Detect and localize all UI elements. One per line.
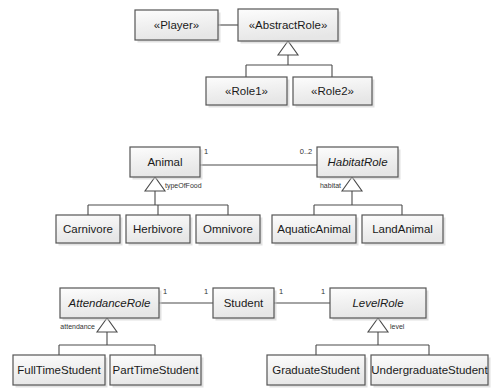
class-name-label: Herbivore bbox=[133, 223, 183, 235]
class-name-label: «Role1» bbox=[225, 85, 268, 97]
multiplicity-label: 1 bbox=[321, 287, 325, 296]
uml-class-diagram: «Player»«AbstractRole»«Role1»«Role2»Anim… bbox=[0, 0, 494, 391]
class-name-label: PartTimeStudent bbox=[113, 364, 200, 376]
class-name-label: AttendanceRole bbox=[68, 297, 151, 309]
multiplicity-label: 1 bbox=[204, 287, 208, 296]
class-box-carnivore[interactable]: Carnivore bbox=[56, 215, 123, 246]
class-name-label: Omnivore bbox=[203, 223, 253, 235]
multiplicity-label: 1 bbox=[204, 147, 208, 156]
class-box-animal[interactable]: Animal bbox=[130, 147, 203, 180]
role-name-label: attendance bbox=[60, 323, 95, 330]
class-box-habitatrole[interactable]: HabitatRole bbox=[317, 147, 401, 180]
class-box-graduatestudent[interactable]: GraduateStudent bbox=[267, 355, 368, 388]
class-name-label: «AbstractRole» bbox=[249, 19, 328, 31]
class-name-label: HabitatRole bbox=[327, 156, 387, 168]
uml-diagram-canvas: «Player»«AbstractRole»«Role1»«Role2»Anim… bbox=[0, 0, 494, 391]
role-name-label: habitat bbox=[320, 182, 341, 189]
class-name-label: UndergraduateStudent bbox=[371, 364, 488, 376]
class-box-attendancerole[interactable]: AttendanceRole bbox=[60, 288, 162, 321]
role-name-label: level bbox=[390, 323, 405, 330]
class-name-label: AquaticAnimal bbox=[277, 223, 351, 235]
class-box-fulltimestudent[interactable]: FullTimeStudent bbox=[13, 355, 108, 388]
class-box-student[interactable]: Student bbox=[213, 288, 277, 321]
class-name-label: «Role2» bbox=[311, 85, 354, 97]
class-box-levelrole[interactable]: LevelRole bbox=[330, 288, 429, 321]
multiplicity-label: 1 bbox=[163, 287, 167, 296]
role-name-label: typeOfFood bbox=[165, 182, 202, 190]
class-box-role2[interactable]: «Role2» bbox=[293, 77, 375, 108]
class-box-layer: «Player»«AbstractRole»«Role1»«Role2»Anim… bbox=[13, 9, 491, 388]
generalization-abstractrole-gen bbox=[246, 41, 332, 77]
class-box-herbivore[interactable]: Herbivore bbox=[126, 215, 193, 246]
class-name-label: Animal bbox=[147, 156, 182, 168]
class-box-role1[interactable]: «Role1» bbox=[206, 77, 290, 108]
generalization-levelrole-gen bbox=[316, 318, 429, 355]
class-name-label: Carnivore bbox=[63, 223, 113, 235]
generalization-animal-gen bbox=[88, 177, 228, 215]
class-box-parttimestudent[interactable]: PartTimeStudent bbox=[110, 355, 204, 388]
class-name-label: Student bbox=[224, 297, 264, 309]
class-name-label: «Player» bbox=[154, 19, 199, 31]
class-name-label: GraduateStudent bbox=[272, 364, 360, 376]
class-box-abstractrole[interactable]: «AbstractRole» bbox=[238, 9, 341, 44]
class-box-omnivore[interactable]: Omnivore bbox=[196, 215, 263, 246]
class-box-undergraduatestudent[interactable]: UndergraduateStudent bbox=[371, 355, 491, 388]
class-name-label: FullTimeStudent bbox=[17, 364, 101, 376]
multiplicity-label: 0..2 bbox=[300, 147, 313, 156]
class-box-player[interactable]: «Player» bbox=[135, 10, 221, 43]
class-name-label: LevelRole bbox=[352, 297, 403, 309]
class-box-landanimal[interactable]: LandAnimal bbox=[362, 215, 446, 246]
multiplicity-label: 1 bbox=[279, 287, 283, 296]
class-name-label: LandAnimal bbox=[372, 223, 433, 235]
class-box-aquaticanimal[interactable]: AquaticAnimal bbox=[272, 215, 359, 246]
